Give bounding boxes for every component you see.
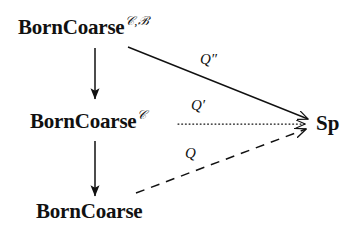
edge-q-double-prime — [128, 47, 308, 119]
node-born-coarse-c-b-superscript: 𝒞,ℬ — [125, 14, 149, 28]
node-sp-base: Sp — [316, 111, 339, 135]
node-born-coarse: BornCoarse — [36, 200, 143, 222]
node-born-coarse-c: BornCoarse𝒞 — [30, 110, 146, 132]
node-born-coarse-c-superscript: 𝒞 — [137, 108, 146, 122]
edge-label-q-double-prime: Q″ — [200, 52, 217, 67]
commutative-diagram: BornCoarse𝒞,ℬ BornCoarse𝒞 BornCoarse Sp … — [0, 0, 360, 235]
node-born-coarse-c-base: BornCoarse — [30, 109, 137, 133]
node-born-coarse-base: BornCoarse — [36, 199, 143, 223]
edge-label-q-prime: Q′ — [191, 98, 205, 113]
node-born-coarse-c-b: BornCoarse𝒞,ℬ — [18, 16, 149, 38]
node-sp: Sp — [316, 113, 339, 134]
edge-q — [136, 129, 306, 193]
edge-label-q: Q — [185, 146, 196, 161]
node-born-coarse-c-b-base: BornCoarse — [18, 15, 125, 39]
